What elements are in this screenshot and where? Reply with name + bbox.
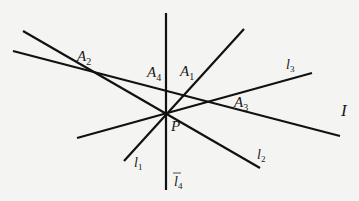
geometry-diagram: A2 A4 A1 A3 P I l3 l1 l2 l4 — [0, 0, 359, 201]
label-A4: A4 — [146, 64, 161, 83]
label-A1: A1 — [179, 63, 194, 82]
label-P: P — [170, 118, 180, 134]
label-l3: l3 — [286, 57, 295, 74]
label-l2: l2 — [257, 147, 265, 164]
label-l4: l4 — [174, 174, 183, 191]
label-l1: l1 — [134, 155, 142, 172]
label-I: I — [340, 101, 348, 120]
